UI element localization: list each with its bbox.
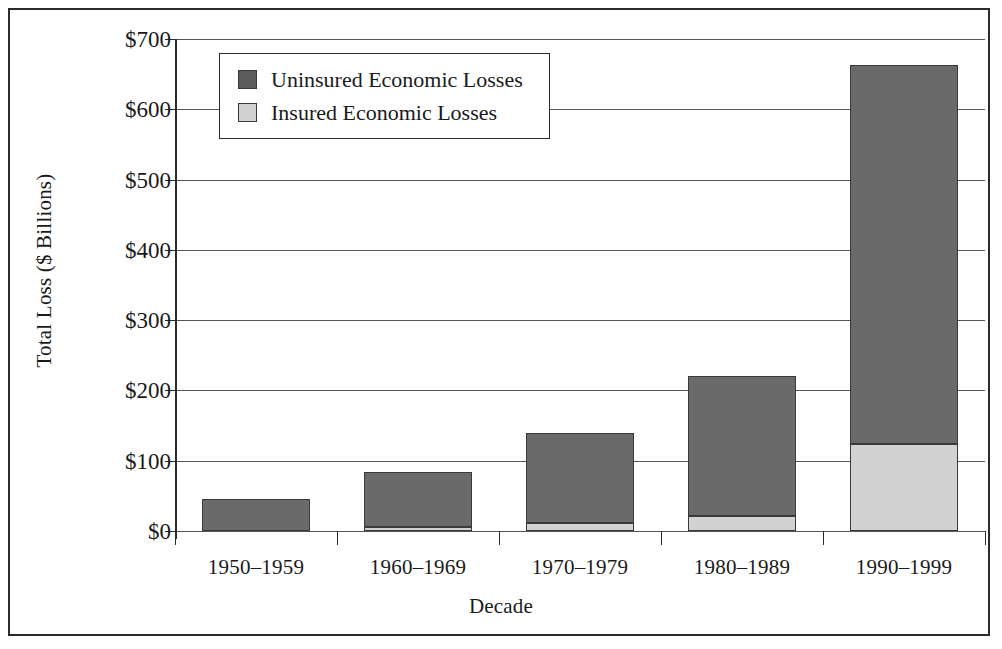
bar-1990-1999: [850, 65, 958, 531]
x-axis-tick: [661, 531, 662, 545]
x-axis-tick: [499, 531, 500, 545]
light-gray-swatch-icon: [238, 103, 257, 122]
y-axis-tick-label: $400: [31, 239, 171, 262]
y-axis-tick-label: $600: [31, 98, 171, 121]
legend-item-insured: Insured Economic Losses: [238, 96, 523, 129]
bar-segment-insured: [526, 523, 634, 531]
y-axis-tick-label: $500: [31, 169, 171, 192]
x-axis-tick-label: 1990–1999: [804, 555, 1002, 580]
gridline: [175, 531, 985, 532]
y-axis-line: [175, 39, 177, 539]
bar-segment-uninsured: [202, 499, 310, 531]
x-axis-tick: [175, 531, 176, 545]
y-axis-tick-label: $100: [31, 450, 171, 473]
y-axis-title: Total Loss ($ Billions): [32, 71, 57, 471]
plot-area: $0$100$200$300$400$500$600$700 1950–1959…: [175, 39, 985, 539]
bar-segment-insured: [364, 527, 472, 531]
y-axis-tick-label: $200: [31, 379, 171, 402]
bar-segment-uninsured: [850, 65, 958, 444]
y-axis-tick-label: $700: [31, 28, 171, 51]
legend-label-uninsured: Uninsured Economic Losses: [271, 69, 523, 91]
bar-segment-uninsured: [364, 472, 472, 528]
y-axis-tick-label: $0: [31, 520, 171, 543]
bar-segment-uninsured: [526, 433, 634, 523]
bar-segment-insured: [850, 444, 958, 531]
legend-item-uninsured: Uninsured Economic Losses: [238, 63, 523, 96]
bar-1970-1979: [526, 433, 634, 531]
x-axis-tick: [985, 531, 986, 545]
x-axis-title: Decade: [10, 594, 992, 619]
bar-1950-1959: [202, 499, 310, 531]
x-axis-tick: [337, 531, 338, 545]
x-axis-tick: [823, 531, 824, 545]
bar-segment-insured: [688, 516, 796, 531]
chart-figure-frame: Total Loss ($ Billions) $0$100$200$300$4…: [8, 8, 990, 636]
chart-legend: Uninsured Economic Losses Insured Econom…: [219, 53, 550, 139]
legend-label-insured: Insured Economic Losses: [271, 102, 497, 124]
bar-segment-uninsured: [688, 376, 796, 516]
dark-gray-swatch-icon: [238, 70, 257, 89]
y-axis-tick-label: $300: [31, 309, 171, 332]
gridline: [175, 39, 985, 40]
bar-1960-1969: [364, 472, 472, 531]
bar-1980-1989: [688, 376, 796, 531]
